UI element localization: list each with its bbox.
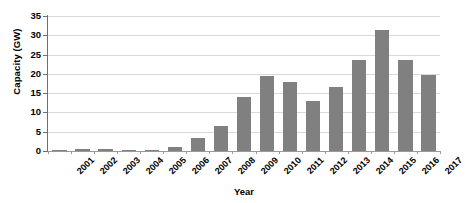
- x-axis-tick-mark: [232, 151, 233, 154]
- x-axis-title: Year: [48, 186, 440, 197]
- x-axis-tick-label: 2008: [236, 155, 257, 176]
- x-axis-tick-mark: [302, 151, 303, 154]
- x-axis-tick-mark: [163, 151, 164, 154]
- y-axis-tick-label: 25: [5, 50, 41, 60]
- y-axis-tick-mark: [43, 132, 48, 133]
- y-axis-tick-label: 15: [5, 88, 41, 98]
- x-axis-tick-label: 2011: [305, 155, 326, 176]
- y-axis-tick-mark: [43, 93, 48, 94]
- bar: [214, 126, 228, 151]
- y-axis-tick-label: 35: [5, 11, 41, 21]
- y-axis-tick-mark: [43, 16, 48, 17]
- x-axis-tick-label: 2014: [374, 155, 395, 176]
- bar: [260, 76, 274, 151]
- x-axis-tick-label: 2009: [259, 155, 280, 176]
- x-axis-tick-labels: 2001200220032004200520062007200820092010…: [48, 155, 440, 185]
- x-axis-tick-mark: [186, 151, 187, 154]
- x-axis-tick-mark: [394, 151, 395, 154]
- y-axis-tick-mark: [43, 112, 48, 113]
- y-axis-tick-label: 5: [5, 127, 41, 137]
- y-axis-tick-mark: [43, 74, 48, 75]
- x-axis-tick-mark: [440, 151, 441, 154]
- y-axis-tick-mark: [43, 35, 48, 36]
- x-axis-tick-mark: [209, 151, 210, 154]
- bars-layer: [48, 16, 440, 151]
- x-axis-tick-label: 2004: [144, 155, 165, 176]
- x-axis-tick-label: 2007: [213, 155, 234, 176]
- x-axis-tick-label: 2006: [190, 155, 211, 176]
- y-axis-tick-label: 10: [5, 107, 41, 117]
- x-axis-tick-mark: [417, 151, 418, 154]
- x-axis-tick-mark: [256, 151, 257, 154]
- x-axis-tick-mark: [325, 151, 326, 154]
- x-axis-tick-label: 2010: [282, 155, 303, 176]
- x-axis-tick-label: 2016: [420, 155, 441, 176]
- x-axis-tick-mark: [371, 151, 372, 154]
- x-axis-tick-label: 2012: [328, 155, 349, 176]
- bar: [398, 60, 412, 151]
- x-axis-tick-mark: [279, 151, 280, 154]
- x-axis-tick-mark: [140, 151, 141, 154]
- bar: [191, 138, 205, 152]
- y-axis-tick-label: 30: [5, 30, 41, 40]
- x-axis-tick-label: 2003: [121, 155, 142, 176]
- y-axis-tick-mark: [43, 151, 48, 152]
- bar: [306, 101, 320, 151]
- bar: [329, 87, 343, 151]
- y-axis-tick-labels: 05101520253035: [0, 0, 41, 203]
- x-axis-tick-label: 2001: [74, 155, 95, 176]
- x-axis-tick-mark: [48, 151, 49, 154]
- x-axis-tick-mark: [348, 151, 349, 154]
- y-axis-tick-label: 0: [5, 146, 41, 156]
- y-axis-tick-label: 20: [5, 69, 41, 79]
- x-axis-tick-label: 2013: [351, 155, 372, 176]
- y-axis-tick-mark: [43, 55, 48, 56]
- x-axis-tick-label: 2015: [397, 155, 418, 176]
- x-axis-tick-label: 2005: [167, 155, 188, 176]
- bar: [237, 97, 251, 151]
- bar: [421, 75, 435, 151]
- bar: [352, 60, 366, 151]
- x-axis-tick-label: 2002: [97, 155, 118, 176]
- bar: [283, 82, 297, 151]
- x-axis-tick-mark: [94, 151, 95, 154]
- x-axis-tick-mark: [71, 151, 72, 154]
- x-axis-tick-mark: [117, 151, 118, 154]
- x-axis-tick-label: 2017: [443, 155, 464, 176]
- bar: [375, 30, 389, 152]
